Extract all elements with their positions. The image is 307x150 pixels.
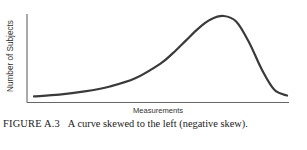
x-axis-label: Measurements bbox=[27, 106, 289, 115]
caption-text: A curve skewed to the left (negative ske… bbox=[68, 118, 248, 129]
y-axis-label: Number of Subjects bbox=[3, 14, 17, 98]
y-axis-label-text: Number of Subjects bbox=[6, 20, 15, 92]
figure-number: FIGURE A.3 bbox=[3, 118, 60, 129]
distribution-curve bbox=[34, 16, 287, 96]
figure-caption: FIGURE A.3A curve skewed to the left (ne… bbox=[3, 118, 303, 131]
